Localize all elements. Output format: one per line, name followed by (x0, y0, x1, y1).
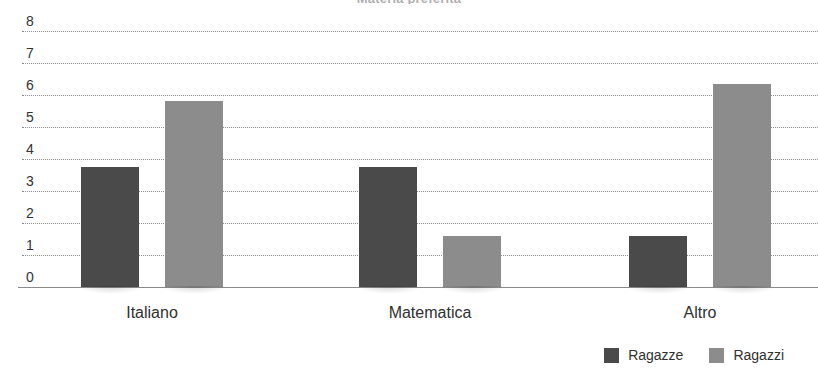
legend-swatch-icon (604, 348, 619, 363)
plot-area: 012345678 (0, 0, 818, 296)
bar (629, 236, 687, 287)
x-axis-category-label: Altro (600, 304, 800, 322)
bar (81, 167, 139, 287)
legend-label: Ragazzi (733, 347, 784, 363)
legend-entry: Ragazze (604, 347, 683, 363)
chart-legend: RagazzeRagazzi (0, 343, 818, 367)
bar (443, 236, 501, 287)
bars-layer (0, 0, 818, 296)
legend-swatch-icon (709, 348, 724, 363)
bar (713, 84, 771, 287)
legend-label: Ragazze (628, 347, 683, 363)
bar (165, 101, 223, 287)
bar (359, 167, 417, 287)
legend-entry: Ragazzi (709, 347, 784, 363)
x-axis-category-label: Matematica (330, 304, 530, 322)
bar-chart: Materia preferita 012345678 ItalianoMate… (0, 0, 818, 372)
x-axis-category-label: Italiano (52, 304, 252, 322)
x-axis-labels: ItalianoMatematicaAltro (0, 298, 818, 332)
